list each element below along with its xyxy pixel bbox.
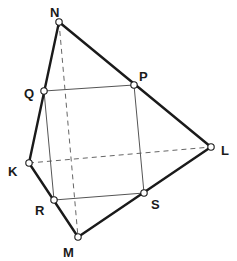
vertex-label-M: M: [63, 245, 74, 260]
dashed-segment-KL: [29, 147, 211, 163]
vertex-label-R: R: [35, 203, 45, 218]
vertex-label-N: N: [50, 5, 59, 20]
thin-segment-RQ: [44, 91, 54, 200]
vertex-label-L: L: [221, 143, 229, 158]
thin-segment-SR: [54, 193, 144, 200]
vertex-label-S: S: [151, 197, 160, 212]
dashed-segment-NM: [59, 22, 78, 237]
thin-segment-QP: [44, 85, 134, 91]
thin-segment-PS: [134, 85, 144, 193]
outer-quadrilateral-edges: [29, 22, 211, 237]
vertex-point-Q: [41, 88, 47, 94]
vertex-point-P: [131, 82, 137, 88]
vertex-label-P: P: [139, 69, 148, 84]
vertex-point-L: [208, 144, 214, 150]
vertex-label-Q: Q: [24, 86, 34, 101]
vertex-label-K: K: [8, 164, 18, 179]
vertex-point-K: [26, 160, 32, 166]
parallelogram-edges: [44, 85, 144, 200]
vertices: [26, 19, 214, 240]
vertex-point-S: [141, 190, 147, 196]
vertex-point-M: [75, 234, 81, 240]
vertex-labels: NPQLKRSM: [8, 5, 229, 260]
geometry-diagram: NPQLKRSM: [0, 0, 237, 261]
vertex-point-R: [51, 197, 57, 203]
